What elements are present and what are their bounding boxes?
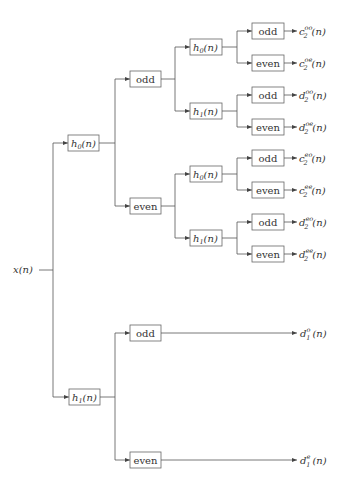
svg-text:odd: odd bbox=[136, 328, 155, 339]
svg-text:odd: odd bbox=[259, 26, 278, 37]
output-label-d2-oo: doo2(n) bbox=[299, 88, 327, 104]
filter-box-h0-odd: h0(n) bbox=[190, 39, 222, 55]
output-label-c2-oe: coe2(n) bbox=[299, 56, 326, 72]
svg-text:de1(n): de1(n) bbox=[300, 453, 327, 469]
downsample-box-even-upper: even bbox=[130, 198, 161, 214]
leaf-box-even-1: even bbox=[252, 55, 284, 71]
downsample-box-odd-lower: odd bbox=[130, 325, 161, 341]
wavelet-packet-tree-diagram: x(n) h0(n) h1(n) odd even h0(n) h1(n) bbox=[0, 0, 346, 479]
leaf-box-odd-3: odd bbox=[252, 150, 284, 166]
output-label-d1-e: de1(n) bbox=[300, 453, 327, 469]
leaf-box-even-2: even bbox=[252, 119, 284, 135]
svg-text:do1(n): do1(n) bbox=[300, 326, 327, 342]
downsample-box-even-lower: even bbox=[130, 452, 161, 468]
output-label-d2-eo: deo2(n) bbox=[299, 215, 327, 231]
filter-box-h0-even: h0(n) bbox=[190, 166, 222, 182]
output-label-c2-eo: ceo2(n) bbox=[299, 151, 326, 167]
svg-text:even: even bbox=[256, 58, 280, 69]
filter-box-h1-even: h1(n) bbox=[190, 230, 222, 246]
svg-text:coe2(n): coe2(n) bbox=[299, 56, 326, 72]
svg-text:odd: odd bbox=[259, 217, 278, 228]
svg-text:odd: odd bbox=[259, 90, 278, 101]
output-label-d2-ee: dee2(n) bbox=[299, 247, 327, 263]
output-label-c2-oo: coo2(n) bbox=[299, 24, 326, 40]
svg-text:even: even bbox=[256, 249, 280, 260]
svg-text:deo2(n): deo2(n) bbox=[299, 215, 327, 231]
svg-text:doo2(n): doo2(n) bbox=[299, 88, 327, 104]
input-signal-label: x(n) bbox=[13, 264, 33, 275]
leaf-box-even-4: even bbox=[252, 246, 284, 262]
filter-box-h0-level1: h0(n) bbox=[68, 135, 99, 151]
svg-text:coo2(n): coo2(n) bbox=[299, 24, 326, 40]
svg-text:even: even bbox=[256, 185, 280, 196]
filter-box-h1-odd: h1(n) bbox=[190, 103, 222, 119]
leaf-box-odd-1: odd bbox=[252, 23, 284, 39]
leaf-box-odd-4: odd bbox=[252, 214, 284, 230]
output-label-d2-oe: doe2(n) bbox=[299, 120, 327, 136]
svg-text:even: even bbox=[134, 455, 158, 466]
filter-box-h1-level1: h1(n) bbox=[69, 389, 100, 405]
svg-text:cee2(n): cee2(n) bbox=[299, 183, 326, 199]
svg-text:ceo2(n): ceo2(n) bbox=[299, 151, 326, 167]
svg-text:odd: odd bbox=[259, 153, 278, 164]
downsample-box-odd-upper: odd bbox=[130, 71, 161, 87]
svg-text:even: even bbox=[256, 122, 280, 133]
svg-text:even: even bbox=[134, 201, 158, 212]
leaf-box-odd-2: odd bbox=[252, 87, 284, 103]
svg-text:dee2(n): dee2(n) bbox=[299, 247, 327, 263]
leaf-box-even-3: even bbox=[252, 182, 284, 198]
output-label-d1-o: do1(n) bbox=[300, 326, 327, 342]
svg-text:odd: odd bbox=[136, 74, 155, 85]
output-label-c2-ee: cee2(n) bbox=[299, 183, 326, 199]
svg-text:doe2(n): doe2(n) bbox=[299, 120, 327, 136]
